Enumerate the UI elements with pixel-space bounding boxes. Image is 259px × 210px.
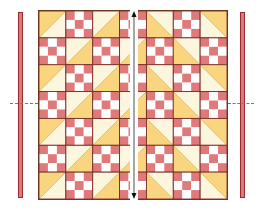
left-border-strip [18, 12, 23, 198]
right-seam-marker-line [228, 103, 254, 104]
center-strip [130, 10, 138, 200]
left-seam-marker-line [10, 103, 38, 104]
double-arrow-icon [130, 10, 138, 200]
right-border-strip [240, 12, 245, 198]
